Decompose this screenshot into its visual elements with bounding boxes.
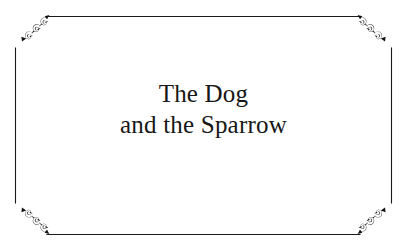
page-title: The Dog and the Sparrow xyxy=(0,78,407,140)
title-page: The Dog and the Sparrow xyxy=(0,0,407,249)
corner-ornament-bottom-left xyxy=(21,207,49,234)
title-line-1: The Dog xyxy=(0,78,407,109)
title-line-2: and the Sparrow xyxy=(0,109,407,140)
corner-ornament-bottom-right xyxy=(358,207,386,234)
corner-ornament-top-left xyxy=(21,15,49,42)
corner-ornament-top-right xyxy=(358,15,386,42)
